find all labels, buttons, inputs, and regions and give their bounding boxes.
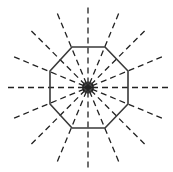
symmetry-ray xyxy=(91,90,145,144)
diagram-canvas xyxy=(0,0,173,172)
symmetry-ray xyxy=(57,91,86,161)
symmetry-ray xyxy=(91,31,145,85)
center-point xyxy=(82,82,94,94)
symmetry-ray xyxy=(92,57,162,86)
symmetry-ray xyxy=(14,57,84,86)
symmetry-ray xyxy=(92,89,162,118)
symmetry-ray xyxy=(31,31,85,85)
symmetry-ray xyxy=(90,91,119,161)
octagon-symmetry-diagram xyxy=(0,0,173,172)
symmetry-ray xyxy=(31,90,85,144)
symmetry-ray xyxy=(57,14,86,84)
symmetry-ray xyxy=(90,14,119,84)
symmetry-ray xyxy=(14,89,84,118)
